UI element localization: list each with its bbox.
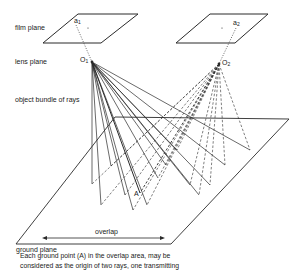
arrow-left-icon (42, 236, 47, 240)
ray-from-o1 (92, 62, 166, 165)
caption-line-2: considered as the origin of two rays, on… (20, 261, 297, 271)
ground-plane-outline (16, 117, 289, 244)
ray-from-o2 (219, 64, 225, 165)
ray-from-o1 (92, 62, 111, 166)
lens-o1-label: O1 (80, 56, 88, 65)
point-a2-label: a2 (233, 19, 240, 28)
lens-o2-point (218, 63, 221, 66)
lens-o2-label: O2 (222, 59, 230, 68)
film-center-dot-1 (87, 27, 88, 28)
ray-from-o2 (125, 64, 219, 195)
arrow-right-icon (160, 236, 165, 240)
film-plane-1 (43, 14, 138, 43)
diagram-canvas (0, 0, 297, 271)
ray-from-o2 (111, 64, 219, 166)
ray-from-o1 (92, 62, 133, 210)
object-bundle-label: object bundle of rays (15, 96, 80, 104)
ray-from-o2 (219, 64, 250, 150)
ray-from-o2 (140, 64, 219, 193)
overlap-arrow (42, 236, 165, 240)
figure-caption: Each ground point (A) in the overlap are… (20, 251, 297, 271)
ray-from-o1 (92, 62, 199, 195)
overlap-label: overlap (95, 228, 118, 236)
ground-plane-shape (16, 117, 289, 244)
lens-o1-point (91, 61, 94, 64)
ray-from-o1 (92, 62, 125, 195)
ground-point-a-label: A (134, 190, 139, 198)
point-a1-label: a1 (74, 17, 81, 26)
ray-from-o2 (166, 64, 219, 165)
caption-line-1: Each ground point (A) in the overlap are… (20, 251, 297, 261)
film-center-dot-2 (221, 27, 222, 28)
lens-plane-label: lens plane (15, 58, 47, 66)
film-plane-label: film plane (15, 24, 45, 32)
photogrammetry-diagram: film plane lens plane object bundle of r… (0, 0, 297, 271)
ray-from-o1 (92, 62, 250, 150)
